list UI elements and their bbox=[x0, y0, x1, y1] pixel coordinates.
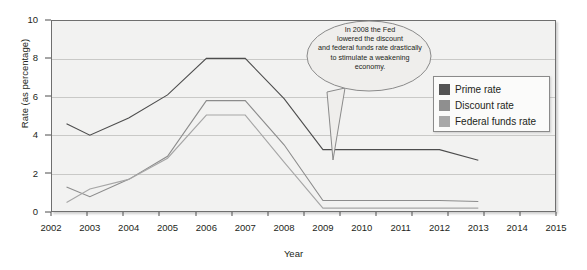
legend-label-federal-funds-rate: Federal funds rate bbox=[455, 116, 536, 127]
x-axis-label: Year bbox=[0, 248, 587, 259]
y-tick-10: 10 bbox=[8, 15, 38, 25]
callout-line-3: and federal funds rate drastically bbox=[305, 43, 435, 52]
series-line-discount-rate bbox=[67, 101, 479, 202]
x-tick-2002: 2002 bbox=[31, 222, 71, 233]
legend-item-discount-rate: Discount rate bbox=[439, 97, 544, 113]
y-tick-0: 0 bbox=[8, 207, 38, 217]
x-tick-2011: 2011 bbox=[381, 222, 421, 233]
y-tick-4: 4 bbox=[8, 130, 38, 140]
legend-label-prime-rate: Prime rate bbox=[455, 84, 501, 95]
x-tick-2010: 2010 bbox=[342, 222, 382, 233]
x-tick-2009: 2009 bbox=[303, 222, 343, 233]
legend-label-discount-rate: Discount rate bbox=[455, 100, 514, 111]
chart-legend: Prime rate Discount rate Federal funds r… bbox=[433, 76, 550, 132]
interest-rate-line-chart: In 2008 the Fed lowered the discount and… bbox=[0, 0, 587, 270]
series-lines bbox=[67, 58, 479, 208]
x-tick-2006: 2006 bbox=[186, 222, 226, 233]
y-tick-8: 8 bbox=[8, 53, 38, 63]
legend-swatch-prime-rate bbox=[439, 84, 450, 95]
legend-item-federal-funds-rate: Federal funds rate bbox=[439, 113, 544, 129]
callout-line-4: to stimulate a weakening bbox=[305, 53, 435, 62]
x-tick-2014: 2014 bbox=[497, 222, 537, 233]
x-tick-2007: 2007 bbox=[225, 222, 265, 233]
legend-swatch-federal-funds-rate bbox=[439, 116, 450, 127]
y-tick-2: 2 bbox=[8, 169, 38, 179]
x-tick-2008: 2008 bbox=[264, 222, 304, 233]
x-tick-2013: 2013 bbox=[458, 222, 498, 233]
callout-line-5: economy. bbox=[305, 62, 435, 71]
x-tick-2012: 2012 bbox=[419, 222, 459, 233]
y-tick-6: 6 bbox=[8, 92, 38, 102]
callout-line-1: In 2008 the Fed bbox=[305, 25, 435, 34]
series-line-federal-funds-rate bbox=[67, 115, 479, 208]
legend-swatch-discount-rate bbox=[439, 100, 450, 111]
callout-line-2: lowered the discount bbox=[305, 34, 435, 43]
x-tick-2015: 2015 bbox=[536, 222, 576, 233]
legend-item-prime-rate: Prime rate bbox=[439, 81, 544, 97]
fed-rate-callout-text: In 2008 the Fed lowered the discount and… bbox=[305, 25, 435, 71]
x-tick-2004: 2004 bbox=[109, 222, 149, 233]
x-tick-2005: 2005 bbox=[148, 222, 188, 233]
x-tick-2003: 2003 bbox=[70, 222, 110, 233]
